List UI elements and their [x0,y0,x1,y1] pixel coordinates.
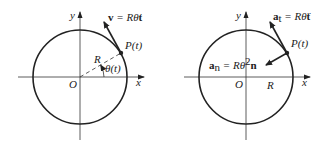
y-axis-label: y [235,9,241,21]
angle-label: θ(t) [105,62,121,75]
x-axis-label: x [301,76,307,88]
tangential-accel-label: at = Rθ̈t [273,10,312,24]
origin-label: O [235,78,243,90]
velocity-label: v = Rθ̇t [108,11,143,23]
angle-arc [101,65,104,77]
point-p [119,51,123,55]
point-p [285,51,289,55]
origin-label: O [69,78,77,90]
right-diagram: y x O R P(t) at = Rθ̈t an = Rθ̇2n [184,9,312,140]
point-label: P(t) [124,39,142,52]
circular-motion-figure: y x O P(t) R θ(t) v = Rθ̇t y x O R P(t) … [0,0,328,148]
point-label: P(t) [290,37,308,50]
radius-label: R [266,79,274,91]
radius-label: R [93,53,101,65]
y-axis-label: y [69,9,75,21]
x-axis-label: x [135,76,141,88]
normal-accel-vector [266,53,287,65]
left-diagram: y x O P(t) R θ(t) v = Rθ̇t [18,9,144,140]
normal-accel-label: an = Rθ̇2n [209,55,257,73]
